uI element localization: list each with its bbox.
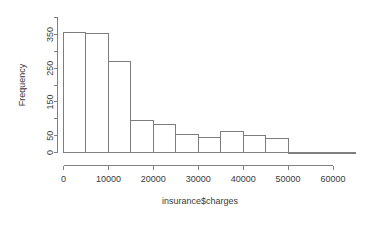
y-axis-tick-label: 250 bbox=[45, 61, 55, 76]
x-axis-tick-label: 10000 bbox=[96, 174, 121, 184]
y-axis-tick-label: 350 bbox=[45, 27, 55, 42]
histogram-bar bbox=[198, 138, 220, 153]
x-axis-tick-label: 30000 bbox=[186, 174, 211, 184]
chart-canvas: 050150250350Frequency0100002000030000400… bbox=[0, 0, 377, 226]
histogram-bar bbox=[221, 132, 243, 153]
histogram-bar bbox=[153, 124, 175, 152]
x-axis: 0100002000030000400005000060000 bbox=[61, 166, 346, 184]
y-axis-title: Frequency bbox=[17, 63, 27, 106]
y-axis-tick-label: 150 bbox=[45, 94, 55, 109]
y-axis-tick-label: 50 bbox=[45, 131, 55, 141]
x-axis-tick-label: 40000 bbox=[231, 174, 256, 184]
x-axis-tick-label: 20000 bbox=[141, 174, 166, 184]
y-axis-tick-label: 0 bbox=[45, 150, 55, 155]
histogram-plot: 050150250350Frequency0100002000030000400… bbox=[0, 0, 377, 226]
histogram-bar bbox=[243, 136, 265, 153]
x-axis-title: insurance$charges bbox=[162, 196, 239, 206]
x-axis-tick-label: 50000 bbox=[276, 174, 301, 184]
histogram-bar bbox=[108, 61, 130, 152]
histogram-bar bbox=[131, 120, 153, 152]
histogram-bars bbox=[64, 33, 356, 153]
histogram-bar bbox=[86, 34, 108, 153]
x-axis-tick-label: 60000 bbox=[321, 174, 346, 184]
histogram-bar bbox=[64, 33, 86, 153]
histogram-bar bbox=[176, 135, 198, 153]
histogram-bar bbox=[266, 138, 288, 152]
x-axis-tick-label: 0 bbox=[61, 174, 66, 184]
y-axis: 050150250350 bbox=[45, 18, 58, 156]
